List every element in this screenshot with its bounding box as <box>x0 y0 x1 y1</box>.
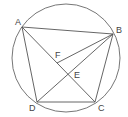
segment-ab <box>22 27 113 34</box>
diagonal-ac <box>22 27 95 102</box>
label-f: F <box>55 51 61 60</box>
label-a: A <box>15 18 21 27</box>
label-c: C <box>98 104 105 113</box>
segment-bc <box>95 34 113 102</box>
diagonal-bd <box>37 34 113 102</box>
segment-da <box>22 27 37 102</box>
label-b: B <box>116 26 122 35</box>
label-e: E <box>74 71 80 80</box>
geometry-diagram: A B C D E F <box>0 0 128 117</box>
label-d: D <box>29 104 36 113</box>
